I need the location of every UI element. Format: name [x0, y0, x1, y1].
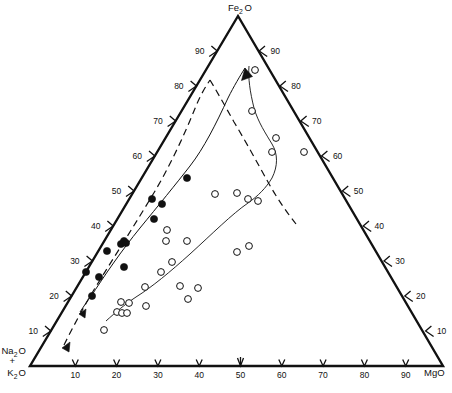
open-circle-series: [101, 67, 308, 334]
bl-vertex-line1-tail: O: [19, 345, 26, 356]
bottom-tick-label: 10: [71, 370, 81, 380]
left-tick-label: 20: [49, 291, 59, 301]
right-tick-label: 10: [437, 326, 447, 336]
data-point-open: [169, 259, 176, 266]
bottom-tick-label: 50: [236, 370, 246, 380]
left-tick-label: 40: [91, 221, 101, 231]
svg-text:Fe2O: Fe2O: [228, 2, 252, 15]
vertex-label-bottom-left: Na2O + K2O: [1, 345, 26, 380]
data-point-open: [245, 196, 252, 203]
data-point-open: [164, 227, 171, 234]
data-point-open: [126, 300, 133, 307]
br-vertex-label: MgO: [424, 367, 445, 378]
bottom-tick-label: 80: [360, 370, 370, 380]
data-point-open: [158, 269, 165, 276]
data-point-filled: [183, 174, 190, 181]
data-point-filled: [150, 215, 157, 222]
bottom-axis-ticks: 10 20 30 40 50 60 70 80 90: [71, 357, 411, 380]
data-point-open: [234, 190, 241, 197]
data-point-open: [142, 284, 149, 291]
bottom-tick-label: 60: [277, 370, 287, 380]
svg-text:K2O: K2O: [7, 367, 26, 380]
vertex-label-bottom-right: MgO: [424, 367, 445, 378]
right-axis-ticks: 90 80 70 60 50 40 30 20 10: [259, 46, 446, 337]
right-tick-label: 20: [416, 291, 426, 301]
left-tick-label: 70: [153, 116, 163, 126]
dashed-trend-arrowhead: [62, 342, 70, 352]
bottom-tick-label: 40: [194, 370, 204, 380]
data-point-open: [273, 135, 280, 142]
right-tick-label: 60: [333, 151, 343, 161]
data-point-open: [212, 191, 219, 198]
bl-vertex-line2-sub: 2: [14, 373, 18, 380]
data-point-filled: [148, 195, 155, 202]
right-tick-label: 70: [312, 116, 322, 126]
top-vertex-sub: 2: [239, 8, 243, 15]
bottom-tick-label: 20: [112, 370, 122, 380]
data-point-open: [177, 283, 184, 290]
data-point-open: [255, 198, 262, 205]
solid-trend-arrowhead: [242, 68, 253, 81]
data-point-filled: [82, 268, 89, 275]
data-point-open: [184, 238, 191, 245]
left-tick-label: 60: [133, 151, 143, 161]
ternary-diagram-figure: 10 20 30 40 50 60 70 80 90 10 20: [0, 0, 452, 393]
data-point-filled: [158, 200, 165, 207]
data-point-open: [249, 108, 256, 115]
left-tick-label: 90: [195, 46, 205, 56]
data-point-open: [252, 67, 259, 74]
bottom-tick-label: 30: [153, 370, 163, 380]
data-point-open: [101, 327, 108, 334]
bl-vertex-line2-tail: O: [19, 367, 26, 378]
data-point-filled: [122, 239, 129, 246]
data-point-open: [163, 238, 170, 245]
right-tick-label: 80: [291, 81, 301, 91]
data-point-open: [124, 310, 131, 317]
vertex-label-top: Fe2O: [228, 2, 252, 15]
dashed-trend-arrow: [62, 80, 296, 352]
data-point-open: [301, 149, 308, 156]
left-tick-label: 80: [174, 81, 184, 91]
data-point-filled: [95, 273, 102, 280]
left-tick-label: 50: [112, 186, 122, 196]
filled-circle-series: [82, 174, 190, 299]
data-point-open: [269, 149, 276, 156]
diagram-canvas: 10 20 30 40 50 60 70 80 90 10 20: [0, 0, 452, 393]
left-tick-label: 10: [29, 326, 39, 336]
data-point-filled: [88, 292, 95, 299]
left-tick-label: 30: [70, 256, 80, 266]
bottom-tick-label: 90: [401, 370, 411, 380]
right-tick-label: 40: [375, 221, 385, 231]
top-vertex-main: Fe: [228, 2, 239, 13]
right-tick-label: 90: [271, 46, 281, 56]
data-point-open: [185, 296, 192, 303]
data-point-open: [118, 299, 125, 306]
left-axis-ticks: 10 20 30 40 50 60 70 80 90: [29, 46, 218, 337]
right-tick-label: 50: [354, 186, 364, 196]
data-point-open: [234, 249, 241, 256]
data-point-open: [195, 285, 202, 292]
bottom-tick-label: 70: [318, 370, 328, 380]
data-point-open: [143, 303, 150, 310]
data-point-filled: [103, 247, 110, 254]
bl-vertex-plus: +: [9, 355, 15, 366]
data-point-filled: [120, 263, 127, 270]
right-tick-label: 30: [395, 256, 405, 266]
top-vertex-tail: O: [244, 2, 251, 13]
data-point-open: [246, 243, 253, 250]
